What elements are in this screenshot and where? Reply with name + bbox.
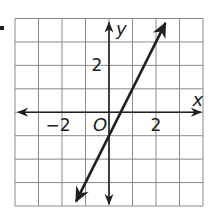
x-tick-label: 2	[151, 115, 162, 135]
bullet-marker	[0, 26, 4, 30]
x-axis-label: x	[191, 89, 203, 110]
y-axis-label: y	[115, 18, 127, 39]
origin-label: O	[93, 114, 107, 135]
coordinate-graph: x y O −222	[0, 0, 208, 215]
y-tick-label: 2	[92, 55, 103, 75]
x-tick-label: −2	[45, 115, 70, 135]
